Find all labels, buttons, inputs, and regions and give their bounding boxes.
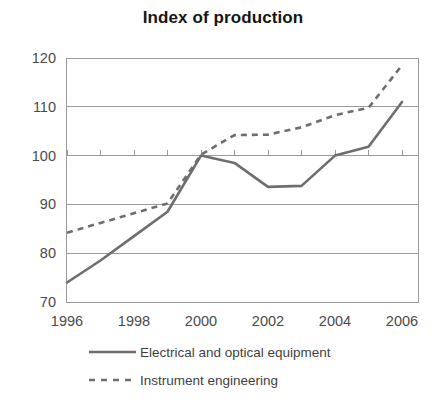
- x-tick-label-1996: 1996: [51, 313, 83, 329]
- y-tick-label-70: 70: [40, 294, 56, 310]
- x-tick-label-1998: 1998: [118, 313, 150, 329]
- plot-frame: [66, 58, 418, 302]
- x-tick-label-2000: 2000: [185, 313, 217, 329]
- chart-container: Index of production 120110100908070 1996…: [0, 0, 446, 415]
- series-line-electrical-and-optical-equipment: [67, 102, 402, 283]
- y-tick-label-120: 120: [32, 50, 56, 66]
- y-axis-labels-group: 120110100908070: [32, 50, 56, 310]
- y-tick-label-90: 90: [40, 196, 56, 212]
- legend-label-instrument-engineering: Instrument engineering: [140, 373, 278, 388]
- gridlines-group: [66, 107, 418, 253]
- x-tick-label-2006: 2006: [386, 313, 418, 329]
- legend-label-electrical-and-optical-equipment: Electrical and optical equipment: [140, 345, 331, 360]
- data-series-group: [67, 65, 402, 282]
- y-tick-label-110: 110: [33, 99, 56, 115]
- x-tick-label-2004: 2004: [319, 313, 351, 329]
- chart-legend: Electrical and optical equipment Instrum…: [89, 345, 331, 388]
- x-tick-label-2002: 2002: [252, 313, 284, 329]
- series-line-instrument-engineering: [67, 65, 402, 232]
- chart-plot: 120110100908070 199619982000200220042006…: [0, 0, 446, 415]
- y-tick-label-100: 100: [32, 148, 56, 164]
- x-axis-labels-group: 199619982000200220042006: [51, 313, 418, 329]
- y-tick-label-80: 80: [40, 245, 56, 261]
